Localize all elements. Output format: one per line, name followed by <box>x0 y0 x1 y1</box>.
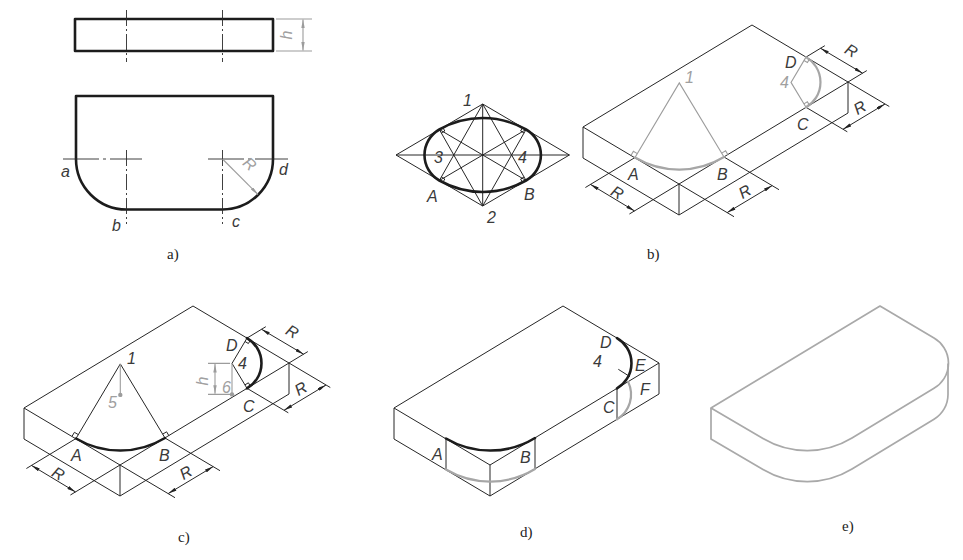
caption-a: a) <box>167 246 179 263</box>
label-A: A <box>431 446 443 463</box>
label-4: 4 <box>593 353 602 370</box>
label-B: B <box>159 447 170 464</box>
point-label-d: d <box>279 161 289 178</box>
point-5-dot <box>118 393 122 397</box>
label-D: D <box>600 334 612 351</box>
point-label-b: b <box>112 217 121 234</box>
label-4: 4 <box>238 355 247 372</box>
label-A: A <box>627 166 639 183</box>
h-dimension-label: h <box>278 30 295 39</box>
background <box>0 0 963 560</box>
caption-b: b) <box>647 246 660 263</box>
label-B: B <box>717 166 728 183</box>
label-C: C <box>797 116 809 133</box>
point-label-c: c <box>232 213 240 230</box>
label-C: C <box>243 398 255 415</box>
h-dimension-label: h <box>194 376 211 385</box>
ellipse-label-A: A <box>426 188 438 205</box>
ellipse-label-3: 3 <box>434 149 443 166</box>
label-1: 1 <box>685 69 694 86</box>
label-4: 4 <box>780 74 789 91</box>
caption-c: c) <box>178 529 190 546</box>
caption-d: d) <box>520 524 533 541</box>
label-F: F <box>640 381 651 398</box>
label-5: 5 <box>108 394 117 411</box>
point-label-a: a <box>61 163 70 180</box>
label-E: E <box>635 357 646 374</box>
caption-e: e) <box>842 518 854 535</box>
ellipse-label-2: 2 <box>486 209 496 226</box>
label-1: 1 <box>127 350 136 367</box>
label-D: D <box>785 54 797 71</box>
label-C: C <box>603 399 615 416</box>
label-D: D <box>226 337 238 354</box>
technical-drawing-canvas: h R a b c d a) 1 2 3 4 A B <box>0 0 963 560</box>
ellipse-label-B: B <box>524 186 535 203</box>
label-B: B <box>520 449 531 466</box>
label-A: A <box>70 447 82 464</box>
ellipse-label-1: 1 <box>463 92 472 109</box>
ellipse-label-4: 4 <box>518 149 527 166</box>
label-6: 6 <box>222 379 231 396</box>
